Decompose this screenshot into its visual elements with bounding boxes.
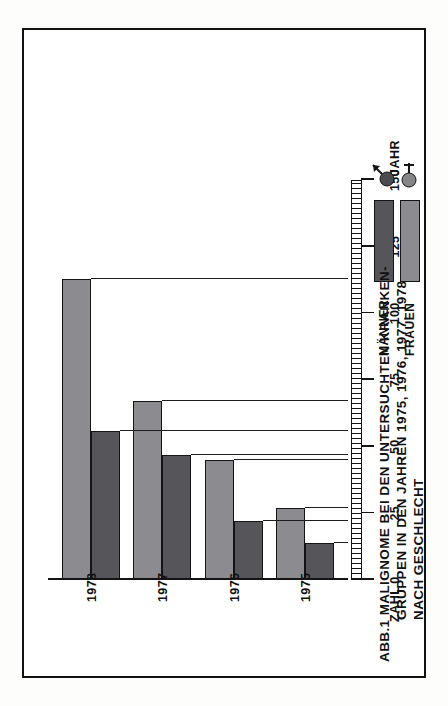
figure-caption: ABB.1 MALIGNOME BEI DEN UNTERSUCHTEN KRA…	[376, 362, 427, 662]
plot-area: ZAHL JAHR 025507510012515019751976197719…	[48, 180, 348, 618]
caption-line-2: GRUPPEN IN DEN JAHREN 1975, 1976, 1977, …	[393, 362, 410, 662]
value-gridline	[162, 400, 348, 401]
value-gridline	[305, 507, 348, 508]
bar-1977-frauen	[133, 401, 162, 580]
legend-swatch-frauen	[400, 200, 420, 282]
rotated-figure-wrapper: ZAHL JAHR 025507510012515019751976197719…	[24, 30, 428, 676]
value-axis-tick	[361, 445, 374, 447]
value-gridline	[263, 520, 348, 521]
bar-1978-männer	[91, 431, 120, 580]
figure-frame: ZAHL JAHR 025507510012515019751976197719…	[22, 28, 426, 678]
category-label-1978: 1978	[85, 573, 99, 602]
mars-symbol-icon	[371, 160, 397, 190]
value-gridline	[191, 454, 348, 455]
caption-line-1: ABB.1 MALIGNOME BEI DEN UNTERSUCHTEN KRA…	[376, 362, 393, 662]
value-axis-band	[351, 180, 362, 580]
bar-1977-männer	[162, 455, 191, 580]
value-gridline	[91, 278, 348, 279]
category-label-1975: 1975	[299, 573, 313, 602]
value-gridline	[120, 430, 348, 431]
chart-canvas: ZAHL JAHR 025507510012515019751976197719…	[24, 30, 428, 676]
caption-line-3: NACH GESCHLECHT	[410, 362, 427, 662]
value-gridline	[334, 542, 348, 543]
value-axis-tick	[361, 512, 374, 514]
bar-1975-frauen	[276, 508, 305, 580]
venus-symbol-icon	[397, 160, 423, 190]
value-axis-tick	[361, 579, 374, 581]
value-axis-tick	[361, 379, 374, 381]
bar-1976-frauen	[205, 460, 234, 580]
value-gridline	[234, 459, 348, 460]
category-label-1977: 1977	[156, 573, 170, 602]
bar-1976-männer	[234, 521, 263, 580]
scanned-page: ZAHL JAHR 025507510012515019751976197719…	[0, 0, 448, 706]
category-label-1976: 1976	[228, 573, 242, 602]
zero-baseline	[48, 578, 348, 580]
bar-1978-frauen	[62, 279, 91, 580]
